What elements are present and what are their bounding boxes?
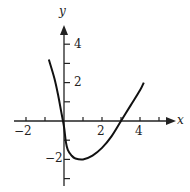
y-tick-label-4: 4 [74, 38, 82, 50]
x-tick-label-neg2: −2 [14, 125, 32, 137]
x-axis-label: x [177, 114, 184, 126]
plot-area [0, 0, 190, 192]
y-tick-label-neg2: −2 [45, 152, 63, 164]
y-tick-label-2: 2 [74, 76, 82, 88]
function-curve [49, 60, 144, 160]
x-tick-label-2: 2 [97, 125, 105, 137]
y-ticks [64, 44, 70, 178]
y-axis-arrow-icon [60, 25, 68, 35]
x-tick-label-4: 4 [135, 125, 143, 137]
function-graph: y x −2 2 4 4 2 −2 [0, 0, 190, 192]
y-axis-label: y [59, 5, 66, 17]
x-axis-arrow-icon [166, 117, 176, 125]
